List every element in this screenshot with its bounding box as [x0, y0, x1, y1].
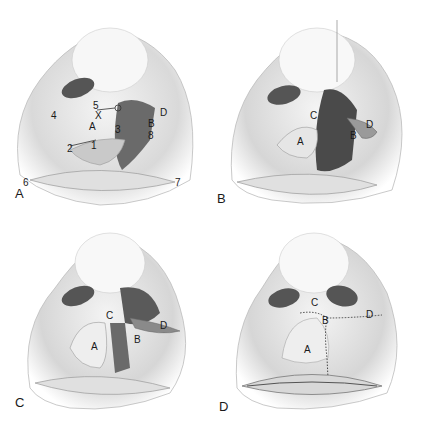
panel-caption-a: A [15, 187, 24, 200]
panel-caption-c: C [15, 396, 24, 409]
landmark-label-x: X [95, 111, 102, 121]
panel-d: C B D A D [212, 218, 424, 436]
flaps-rotation-illustration [0, 218, 212, 436]
flap-label-d: D [366, 120, 373, 130]
flap-label-c: C [106, 311, 113, 321]
flap-label-d: D [160, 108, 167, 118]
flap-label-b: B [350, 131, 357, 141]
panel-c: C A B D C [0, 218, 212, 436]
flap-label-a: A [304, 345, 311, 355]
panel-b: C A B D B [212, 0, 424, 218]
flap-label-b: B [148, 119, 155, 129]
flap-label-c: C [311, 298, 318, 308]
landmark-label-1: 1 [91, 141, 97, 151]
landmark-label-2: 2 [67, 144, 73, 154]
flap-label-c: C [310, 111, 317, 121]
flap-label-b: B [322, 316, 329, 326]
flap-label-a: A [89, 122, 96, 132]
flap-label-a: A [91, 342, 98, 352]
sutured-repair-illustration [212, 218, 424, 436]
flap-label-a: A [297, 137, 304, 147]
landmark-label-8: 8 [148, 131, 154, 141]
flap-label-d: D [366, 310, 373, 320]
incision-flaps-elevated-illustration [212, 0, 424, 218]
landmark-label-7: 7 [175, 178, 181, 188]
panel-caption-b: B [217, 192, 226, 205]
panel-a: 5 X A 4 2 1 3 D B 8 6 7 A [0, 0, 212, 218]
flap-label-b: B [134, 335, 141, 345]
landmark-label-4: 4 [51, 111, 57, 121]
flap-label-d: D [160, 321, 167, 331]
panel-caption-d: D [219, 400, 228, 413]
landmark-label-3: 3 [115, 125, 121, 135]
